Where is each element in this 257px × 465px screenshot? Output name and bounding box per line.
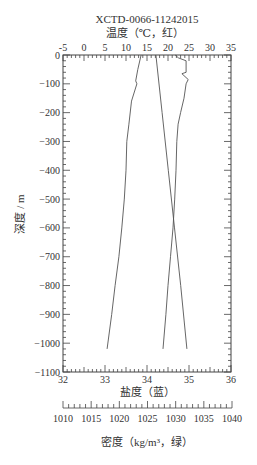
top-tick-label: 10 [121,42,131,53]
density-tick-label: 1035 [194,413,214,424]
bottom-axis-ticks: 3233343536 [58,365,236,385]
top-tick-label: 20 [163,42,173,53]
top-tick-label: -5 [59,42,67,53]
top-axis-label: 温度（℃，红） [106,26,184,39]
density-axis-label: 密度（kg/m³，绿） [101,435,193,448]
series-line [163,55,188,349]
xctd-profile-chart: XCTD-0066-11242015 温度（℃，红） -505101520253… [0,0,257,465]
density-tick-label: 1020 [109,413,129,424]
bottom-tick-label: 36 [226,374,236,385]
y-tick-label: −1100 [35,367,60,378]
top-tick-label: 35 [226,42,236,53]
y-tick-label: −200 [39,107,60,118]
y-tick-label: −700 [39,251,60,262]
y-tick-label: −1000 [34,338,60,349]
y-tick-label: −300 [39,136,60,147]
density-tick-label: 1030 [166,413,186,424]
series-line [107,55,141,349]
profile-lines [107,55,188,349]
bottom-tick-label: 34 [142,374,152,385]
chart-title: XCTD-0066-11242015 [96,13,199,25]
density-tick-label: 1025 [138,413,158,424]
bottom-axis-label: 盐度（蓝） [120,385,175,398]
density-axis: 1010101510201025103010351040 [53,401,242,424]
y-tick-label: −600 [39,222,60,233]
top-tick-label: 0 [82,42,87,53]
density-tick-label: 1040 [222,413,242,424]
top-tick-label: 30 [205,42,215,53]
density-tick-label: 1010 [53,413,73,424]
plot-frame [63,55,231,372]
y-tick-label: −800 [39,280,60,291]
bottom-tick-label: 33 [100,374,110,385]
y-tick-label: 0 [55,50,60,61]
y-axis-label: 深度 / m [13,194,26,234]
left-axis-ticks: 0−100−200−300−400−500−600−700−800−900−10… [34,50,70,378]
top-tick-label: 25 [184,42,194,53]
bottom-tick-label: 35 [184,374,194,385]
top-axis-ticks: -505101520253035 [59,42,236,61]
y-tick-label: −900 [39,309,60,320]
y-tick-label: −400 [39,165,60,176]
top-tick-label: 5 [103,42,108,53]
top-tick-label: 15 [142,42,152,53]
series-line [156,55,187,349]
right-axis-ticks [224,55,231,372]
y-tick-label: −100 [39,78,60,89]
density-tick-label: 1015 [81,413,101,424]
y-tick-label: −500 [39,194,60,205]
